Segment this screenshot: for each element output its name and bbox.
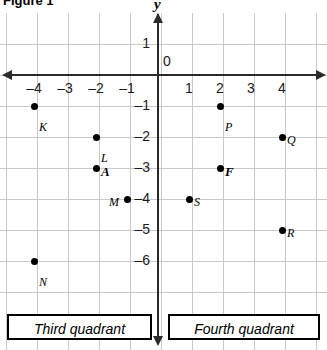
y-axis-arrow-up	[153, 13, 163, 23]
x-tick-label: –2	[83, 80, 109, 96]
gridline-vertical	[99, 13, 100, 350]
gridline-vertical	[130, 13, 131, 350]
data-point-f	[217, 165, 224, 172]
data-point-label-s: S	[194, 195, 200, 210]
data-point-m	[124, 196, 131, 203]
x-axis-arrow-right	[316, 70, 326, 80]
gridline-vertical	[161, 13, 162, 350]
gridline-vertical	[68, 13, 69, 350]
gridline-vertical	[192, 13, 193, 350]
coordinate-plane-figure: Figure 1 y –4–3–2–112341–1–2–3–4–5–60 KL…	[0, 0, 327, 350]
y-tick-label: 1	[124, 35, 150, 51]
y-tick-label: –1	[124, 97, 150, 113]
y-tick-label: –5	[124, 221, 150, 237]
gridline-horizontal	[0, 261, 327, 262]
x-tick-label: 2	[207, 80, 233, 96]
data-point-l	[93, 134, 100, 141]
gridline-horizontal	[0, 137, 327, 138]
figure-title: Figure 1	[3, 0, 54, 8]
y-tick-label: –6	[124, 252, 150, 268]
third-quadrant-caption: Third quadrant	[7, 314, 152, 340]
gridline-horizontal	[0, 199, 327, 200]
gridline-vertical	[316, 13, 317, 350]
y-axis-arrow-down	[153, 336, 163, 346]
x-tick-label: –4	[21, 80, 47, 96]
x-tick-label: 4	[269, 80, 295, 96]
data-point-s	[186, 196, 193, 203]
x-tick-label: –1	[114, 80, 140, 96]
origin-label: 0	[163, 53, 171, 69]
data-point-label-a: A	[101, 164, 110, 180]
data-point-a	[93, 165, 100, 172]
data-point-n	[31, 258, 38, 265]
gridline-horizontal	[0, 106, 327, 107]
fourth-quadrant-caption: Fourth quadrant	[168, 314, 320, 340]
gridline-horizontal	[0, 168, 327, 169]
data-point-label-n: N	[39, 275, 47, 290]
x-tick-label: 3	[238, 80, 264, 96]
gridline-vertical	[37, 13, 38, 350]
gridline-vertical	[285, 13, 286, 350]
x-tick-label: –3	[52, 80, 78, 96]
gridline-vertical	[223, 13, 224, 350]
y-axis-label: y	[154, 0, 161, 13]
data-point-q	[279, 134, 286, 141]
data-point-label-f: F	[225, 164, 234, 180]
data-point-label-k: K	[39, 120, 47, 135]
y-axis	[157, 14, 159, 339]
x-axis	[4, 74, 318, 76]
gridline-vertical	[254, 13, 255, 350]
x-axis-arrow-left	[2, 70, 12, 80]
gridline-horizontal	[0, 44, 327, 45]
data-point-label-q: Q	[287, 133, 296, 148]
x-tick-label: 1	[176, 80, 202, 96]
data-point-k	[31, 103, 38, 110]
gridline-vertical	[6, 13, 7, 350]
y-tick-label: –3	[124, 159, 150, 175]
gridline-horizontal	[0, 292, 327, 293]
data-point-p	[217, 103, 224, 110]
data-point-label-m: M	[109, 195, 119, 210]
data-point-label-p: P	[225, 120, 232, 135]
data-point-r	[279, 227, 286, 234]
y-tick-label: –2	[124, 128, 150, 144]
gridline-horizontal	[0, 230, 327, 231]
data-point-label-r: R	[287, 226, 294, 241]
